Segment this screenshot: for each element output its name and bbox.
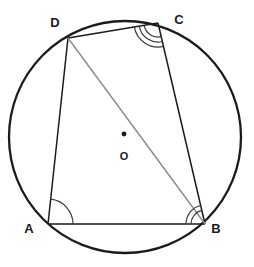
quadrilateral-sides xyxy=(48,23,205,224)
centre-label-o: O xyxy=(120,151,129,162)
angle-arc-a-1 xyxy=(51,199,73,224)
circumscribed-circle xyxy=(9,21,241,253)
quadrilateral-diagonals xyxy=(68,38,205,224)
side-DA xyxy=(48,38,68,224)
diagonal-DB xyxy=(68,38,205,224)
centre-point-group xyxy=(122,132,127,137)
vertex-label-d: D xyxy=(50,16,60,29)
vertex-label-a: A xyxy=(24,222,34,235)
centre-dot-icon xyxy=(122,132,127,137)
circle-group xyxy=(9,21,241,253)
side-BC xyxy=(158,23,205,224)
angle-arc-marks xyxy=(51,25,202,224)
vertex-label-b: B xyxy=(211,222,221,235)
geometry-diagram: A B C D O xyxy=(0,0,254,267)
vertex-label-c: C xyxy=(174,13,184,26)
